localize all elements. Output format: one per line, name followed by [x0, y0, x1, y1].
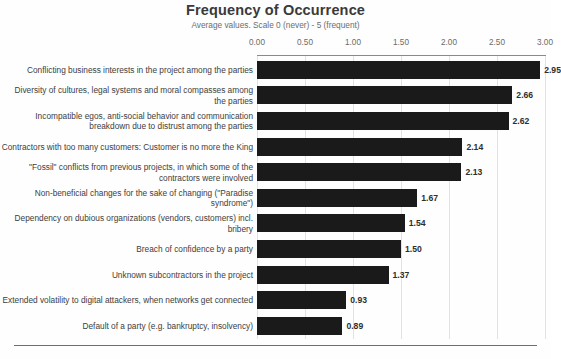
- bar-track: 2.66: [257, 86, 512, 104]
- category-label: Incompatible egos, anti-social behavior …: [1, 111, 257, 132]
- bar-track: 2.14: [257, 138, 462, 156]
- x-tick-label: 3.00: [537, 38, 553, 47]
- bar-row: Dependency on dubious organizations (ven…: [0, 211, 551, 237]
- bar-track: 0.93: [257, 291, 346, 309]
- bar-track: 1.50: [257, 240, 401, 258]
- footer-divider: [14, 345, 537, 346]
- chart-title-block: Frequency of Occurrence Average values. …: [0, 2, 551, 31]
- bar-row: Diversity of cultures, legal systems and…: [0, 83, 551, 109]
- bar-track: 2.62: [257, 112, 509, 130]
- bar-row: Breach of confidence by a party1.50: [0, 236, 551, 262]
- category-label: Dependency on dubious organizations (ven…: [1, 213, 257, 234]
- bar: [257, 214, 405, 232]
- chart-subtitle: Average values. Scale 0 (never) - 5 (fre…: [0, 20, 551, 31]
- bar: [257, 163, 461, 181]
- bar-row: Non-beneficial changes for the sake of c…: [0, 185, 551, 211]
- x-axis-tick-labels: 0.000.501.001.502.002.503.00: [0, 38, 551, 52]
- bar-value-label: 1.50: [401, 244, 422, 254]
- bar: [257, 266, 389, 284]
- bar-value-label: 1.37: [389, 270, 410, 280]
- bar-row: Conflicting business interests in the pr…: [0, 57, 551, 83]
- category-label: Conflicting business interests in the pr…: [1, 65, 257, 75]
- bar-value-label: 0.89: [342, 321, 363, 331]
- x-tick-label: 1.50: [393, 38, 409, 47]
- bar: [257, 240, 401, 258]
- bar: [257, 112, 509, 130]
- bar-row: Unknown subcontractors in the project1.3…: [0, 262, 551, 288]
- x-tick-label: 0.50: [297, 38, 313, 47]
- bar-track: 2.13: [257, 163, 461, 181]
- x-tick-label: 2.50: [489, 38, 505, 47]
- bar-track: 2.95: [257, 61, 540, 79]
- bar-row: Default of a party (e.g. bankruptcy, ins…: [0, 313, 551, 339]
- bar-track: 1.67: [257, 189, 417, 207]
- bar-value-label: 0.93: [346, 295, 367, 305]
- x-tick-label: 1.00: [345, 38, 361, 47]
- bar-track: 1.37: [257, 266, 389, 284]
- bar-value-label: 2.14: [462, 142, 483, 152]
- bar-track: 1.54: [257, 214, 405, 232]
- x-tick-label: 0.00: [249, 38, 265, 47]
- bar: [257, 61, 540, 79]
- bar: [257, 317, 342, 335]
- category-label: Contractors with too many customers: Cus…: [1, 141, 257, 151]
- bar-row: Contractors with too many customers: Cus…: [0, 134, 551, 160]
- bar-value-label: 1.54: [405, 218, 426, 228]
- bar: [257, 189, 417, 207]
- category-label: "Fossil" conflicts from previous project…: [1, 162, 257, 183]
- category-label: Breach of confidence by a party: [1, 244, 257, 254]
- bar-value-label: 2.62: [509, 116, 530, 126]
- bar-value-label: 1.67: [417, 193, 438, 203]
- bar-track: 0.89: [257, 317, 342, 335]
- category-label: Default of a party (e.g. bankruptcy, ins…: [1, 321, 257, 331]
- x-tick-label: 2.00: [441, 38, 457, 47]
- category-label: Extended volatility to digital attackers…: [1, 295, 257, 305]
- bar-value-label: 2.66: [512, 90, 533, 100]
- bar: [257, 86, 512, 104]
- bar: [257, 291, 346, 309]
- bar-row: Incompatible egos, anti-social behavior …: [0, 108, 551, 134]
- category-label: Non-beneficial changes for the sake of c…: [1, 187, 257, 208]
- category-label: Unknown subcontractors in the project: [1, 269, 257, 279]
- chart-title: Frequency of Occurrence: [0, 2, 551, 18]
- bar-value-label: 2.95: [540, 65, 561, 75]
- bar-rows: Conflicting business interests in the pr…: [0, 57, 551, 337]
- bar: [257, 138, 462, 156]
- category-label: Diversity of cultures, legal systems and…: [1, 85, 257, 106]
- bar-row: "Fossil" conflicts from previous project…: [0, 159, 551, 185]
- bar-value-label: 2.13: [461, 167, 482, 177]
- bar-row: Extended volatility to digital attackers…: [0, 287, 551, 313]
